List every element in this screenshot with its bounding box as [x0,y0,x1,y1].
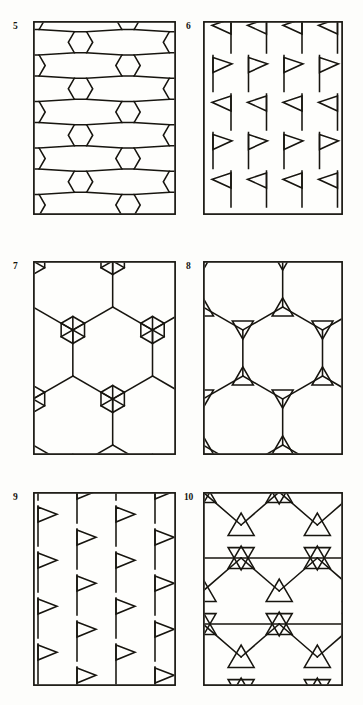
panel-9: 9 [33,492,176,686]
panel-10-artwork [203,492,343,686]
panel-9-artwork [33,492,176,686]
panel-7: 7 [33,261,176,455]
panel-5: 5 [33,21,176,215]
panel-10: 10 [203,492,343,686]
panel-8-label: 8 [186,262,191,272]
figure-sheet: 5 6 7 8 9 10 [0,0,363,705]
panel-6: 6 [203,21,343,215]
panel-7-label: 7 [13,262,18,272]
panel-8-artwork [203,261,343,455]
panel-5-label: 5 [13,22,18,32]
panel-7-artwork [33,261,176,455]
panel-6-artwork [203,21,343,215]
panel-10-label: 10 [184,493,193,503]
panel-5-artwork [33,21,176,215]
panel-8: 8 [203,261,343,455]
panel-9-label: 9 [13,493,18,503]
panel-6-label: 6 [186,22,191,32]
